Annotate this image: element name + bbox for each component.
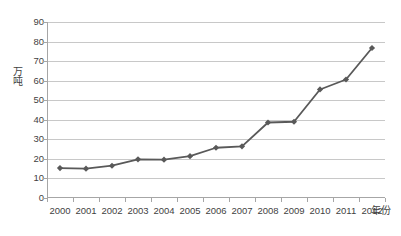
data-point-marker [135, 156, 141, 162]
y-axis-tick-mark [43, 159, 47, 160]
y-axis-tick-mark [43, 139, 47, 140]
data-point-marker [109, 163, 115, 169]
data-point-marker [83, 166, 89, 172]
y-axis-tick-mark [43, 61, 47, 62]
data-point-marker [161, 157, 167, 163]
y-axis-tick-mark [43, 22, 47, 23]
y-axis-tick-mark [43, 81, 47, 82]
y-axis-tick-mark [43, 100, 47, 101]
data-series-layer [0, 0, 401, 236]
y-axis-tick-mark [43, 42, 47, 43]
data-point-marker [187, 153, 193, 159]
data-point-marker [57, 165, 63, 171]
y-axis-tick-mark [43, 178, 47, 179]
y-axis-tick-mark [43, 120, 47, 121]
data-point-marker [213, 145, 219, 151]
line-chart: 万吨 0102030405060708090 20002001200220032… [0, 0, 401, 236]
y-axis-tick-mark [43, 198, 47, 199]
